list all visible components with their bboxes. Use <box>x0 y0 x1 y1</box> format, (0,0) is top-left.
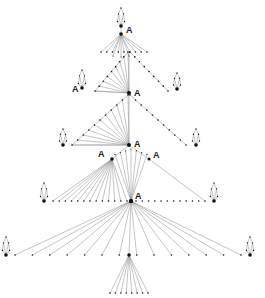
edge <box>248 237 251 243</box>
leaf-node <box>140 104 142 106</box>
hub-node <box>129 199 133 203</box>
edge <box>101 34 121 52</box>
edge <box>118 14 119 22</box>
leaf-node <box>84 75 85 76</box>
edge <box>41 189 42 197</box>
leaf-node <box>129 51 131 53</box>
leaf-node <box>162 85 164 87</box>
leaf-node <box>148 71 150 73</box>
leaf-node <box>185 200 187 202</box>
leaf-node <box>120 292 122 294</box>
leaf-node <box>79 75 80 76</box>
edge <box>107 72 111 77</box>
edge <box>154 76 159 81</box>
leaf-node <box>120 200 122 202</box>
edge <box>175 73 178 78</box>
edge <box>124 52 128 57</box>
edge <box>72 159 113 201</box>
leaf-node <box>146 51 148 53</box>
leaf-node <box>193 134 194 135</box>
leaf-node <box>112 55 113 56</box>
edge <box>117 100 123 105</box>
edge <box>109 159 113 201</box>
leaf-node <box>180 84 181 85</box>
edge <box>67 201 131 255</box>
edge <box>247 243 248 251</box>
leaf-node <box>247 242 248 243</box>
leaf-node <box>115 66 117 68</box>
edge <box>99 81 103 86</box>
hub-node <box>119 32 123 36</box>
leaf-node <box>179 78 180 79</box>
hub-node <box>212 199 216 203</box>
leaf-node <box>198 200 200 202</box>
leaf-node <box>60 134 61 135</box>
leaf-node <box>107 76 109 78</box>
leaf-node <box>94 90 96 92</box>
leaf-node <box>198 134 199 135</box>
leaf-node <box>89 200 91 202</box>
leaf-node <box>124 21 125 22</box>
edge <box>47 189 48 197</box>
leaf-node <box>123 56 125 58</box>
leaf-node <box>116 104 118 106</box>
leaf-node <box>213 182 214 183</box>
leaf-node <box>173 84 174 85</box>
leaf-node <box>125 292 127 294</box>
edge <box>72 140 78 145</box>
leaf-node <box>135 99 137 101</box>
edge <box>193 134 194 141</box>
edge <box>124 14 125 22</box>
tree-diagram: AAAAAAA <box>0 0 265 298</box>
leaf-node <box>160 200 162 202</box>
leaf-node <box>43 182 44 183</box>
leaf-node <box>174 78 175 79</box>
edge <box>65 159 112 201</box>
leaf-node <box>142 292 144 294</box>
edge <box>112 67 116 72</box>
leaf-node <box>119 254 121 256</box>
edge <box>44 183 47 189</box>
edge <box>80 70 83 76</box>
leaf-node <box>188 254 190 256</box>
edge <box>135 57 140 62</box>
edge <box>129 255 148 293</box>
edge <box>94 120 100 125</box>
edge <box>131 201 171 255</box>
leaf-node <box>130 148 131 149</box>
leaf-node <box>40 196 41 197</box>
edge <box>163 86 168 91</box>
edge <box>63 129 66 134</box>
edge <box>103 76 107 81</box>
leaf-node <box>111 71 113 73</box>
leaf-node <box>249 236 250 237</box>
hub-label: A <box>134 139 141 149</box>
edge <box>217 189 218 197</box>
leaf-node <box>131 292 133 294</box>
edge <box>194 129 197 134</box>
leaf-node <box>66 140 67 141</box>
hub-node <box>119 24 123 28</box>
hub-label: A <box>126 25 133 35</box>
edge <box>149 159 205 201</box>
edge <box>50 201 131 255</box>
leaf-node <box>204 200 206 202</box>
leaf-node <box>135 51 137 53</box>
hub-node <box>61 143 65 147</box>
leaf-node <box>95 200 97 202</box>
leaf-node <box>146 109 148 111</box>
edge <box>130 52 135 57</box>
leaf-node <box>223 254 225 256</box>
edge <box>4 237 7 243</box>
leaf-node <box>120 7 121 8</box>
leaf-node <box>154 200 156 202</box>
leaf-node <box>32 254 34 256</box>
leaf-node <box>253 250 254 251</box>
leaf-node <box>114 200 116 202</box>
edge <box>175 135 181 140</box>
leaf-node <box>173 200 175 202</box>
leaf-node <box>163 124 165 126</box>
leaf-node <box>146 154 147 155</box>
leaf-node <box>102 80 104 82</box>
hub-node <box>248 253 252 257</box>
